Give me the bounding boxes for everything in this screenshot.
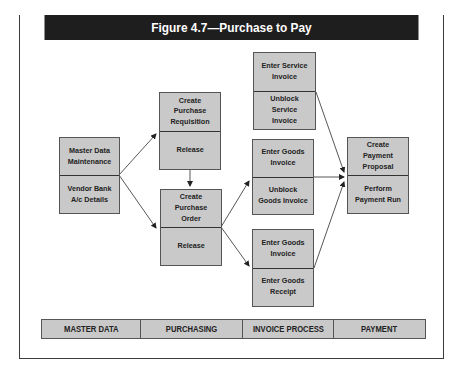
phase-invoice-process: INVOICE PROCESS xyxy=(243,320,334,338)
order-release: Release xyxy=(161,227,221,265)
phase-bar: MASTER DATA PURCHASING INVOICE PROCESS P… xyxy=(41,319,426,339)
phase-payment: PAYMENT xyxy=(334,320,425,338)
master-data-box: Master Data Maintenance Vendor Bank A/c … xyxy=(59,137,120,214)
perform-payment-run: Perform Payment Run xyxy=(348,175,408,213)
create-purchase-requisition: Create Purchase Requisition xyxy=(160,93,220,131)
enter-service-invoice: Enter Service Invoice xyxy=(254,53,315,91)
enter-goods-invoice: Enter Goods Invoice xyxy=(253,140,313,177)
create-purchase-order: Create Purchase Order xyxy=(161,190,221,227)
payment-box: Create Payment Proposal Perform Payment … xyxy=(347,137,409,214)
enter-goods-invoice-2: Enter Goods Invoice xyxy=(253,230,313,268)
phase-purchasing: PURCHASING xyxy=(141,320,243,338)
requisition-release: Release xyxy=(160,131,220,170)
unblock-service-invoice: Unblock Service Invoice xyxy=(254,91,315,130)
goods-invoice-box: Enter Goods Invoice Unblock Goods Invoic… xyxy=(252,139,314,215)
purchase-order-box: Create Purchase Order Release xyxy=(160,189,222,266)
vendor-bank-details: Vendor Bank A/c Details xyxy=(60,175,119,213)
goods-receipt-box: Enter Goods Invoice Enter Goods Receipt xyxy=(252,229,314,307)
phase-master-data: MASTER DATA xyxy=(42,320,141,338)
enter-goods-receipt: Enter Goods Receipt xyxy=(253,268,313,307)
create-payment-proposal: Create Payment Proposal xyxy=(348,138,408,175)
master-data-maintenance: Master Data Maintenance xyxy=(60,138,119,175)
figure-title: Figure 4.7—Purchase to Pay xyxy=(45,15,419,40)
service-invoice-box: Enter Service Invoice Unblock Service In… xyxy=(253,52,316,130)
unblock-goods-invoice: Unblock Goods Invoice xyxy=(253,177,313,215)
purchase-requisition-box: Create Purchase Requisition Release xyxy=(159,92,221,170)
